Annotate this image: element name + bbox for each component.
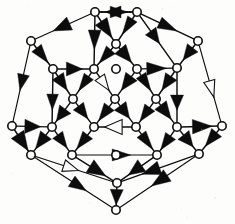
scan-speckle	[179, 131, 180, 132]
scan-speckle	[201, 168, 202, 169]
graph-node-n22	[113, 179, 121, 187]
scan-speckle	[162, 8, 163, 9]
graph-node-n19	[68, 151, 76, 159]
graph-node-n16	[173, 123, 181, 131]
figure-canvas	[0, 0, 235, 224]
graph-node-n23	[112, 206, 120, 214]
graph-node-n7	[133, 65, 141, 73]
graph-node-n14	[90, 123, 98, 131]
graph-node-n21	[195, 150, 203, 158]
scan-speckle	[112, 167, 113, 168]
scan-speckle	[182, 164, 183, 165]
scan-speckle	[181, 209, 182, 210]
graph-node-n11	[152, 95, 160, 103]
scan-speckle	[12, 173, 13, 174]
graph-node-n3	[194, 37, 202, 45]
graph-node-n17	[218, 122, 226, 130]
scan-speckle	[141, 131, 142, 132]
graph-node-n18	[27, 151, 35, 159]
scan-speckle	[45, 163, 46, 164]
directed-graph	[0, 0, 235, 224]
graph-node-n8	[173, 64, 181, 72]
scan-speckle	[89, 202, 90, 203]
scan-speckle	[214, 197, 216, 199]
scan-speckle	[203, 124, 204, 125]
scan-speckle	[95, 76, 96, 77]
graph-node-n10	[111, 95, 119, 103]
graph-node-n4	[49, 65, 57, 73]
scan-speckle	[118, 189, 119, 190]
scan-speckle	[173, 6, 174, 7]
scan-speckle	[33, 156, 34, 157]
graph-node-n1	[133, 8, 141, 16]
scan-speckle	[134, 133, 135, 134]
scan-speckle	[107, 92, 108, 93]
scan-speckle	[72, 174, 73, 175]
graph-node-n5	[90, 65, 98, 73]
scan-speckle	[118, 91, 119, 92]
scan-speckle	[187, 216, 188, 217]
graph-node-n9	[69, 95, 77, 103]
graph-node-n12	[8, 122, 16, 130]
scan-speckle	[162, 117, 163, 118]
graph-node-n24	[112, 65, 120, 73]
scan-speckle	[50, 63, 51, 64]
scan-speckle	[27, 6, 28, 7]
graph-node-n20	[153, 151, 161, 159]
graph-node-n0	[91, 8, 99, 16]
scan-speckle	[201, 129, 203, 131]
scan-speckle	[53, 135, 55, 137]
graph-node-n2	[27, 37, 35, 45]
graph-node-n13	[48, 123, 56, 131]
graph-node-n6	[112, 40, 120, 48]
graph-node-n15	[132, 123, 140, 131]
graph-node-n25	[112, 151, 120, 159]
